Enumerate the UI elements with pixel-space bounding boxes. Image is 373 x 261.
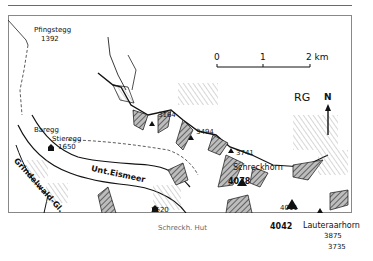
trail-line (20, 45, 28, 115)
region-code: RG (294, 92, 310, 103)
peak-elevation: 4011 (280, 205, 298, 212)
scale-tick-0: 0 (214, 53, 220, 62)
peak-elevation: 3735 (328, 244, 346, 251)
elevation-label: 4042 (270, 223, 292, 231)
elevation-label: 1650 (58, 144, 76, 151)
place-label-lauteraarhorn: Lauteraarhorn (303, 222, 360, 230)
place-label-schreckh-hut: Schreckh. Hut (158, 225, 207, 232)
place-label-baregg: Baregg (34, 127, 59, 134)
scale-tick-2: 2 km (306, 53, 329, 62)
elevation-label: 4078 (228, 178, 250, 186)
elevation-label: 2520 (151, 207, 169, 214)
map-drawing (8, 15, 352, 213)
place-label-schreckhorn: Schreckhorn (233, 164, 283, 172)
trail-line (8, 20, 28, 45)
place-label-pfingstegg: Pfingstegg (34, 27, 71, 34)
peak-elevation: 3875 (324, 233, 342, 240)
place-label-stieregg: Stieregg (52, 136, 81, 143)
peak-elevation: 3494 (196, 129, 214, 136)
elevation-label: 1392 (41, 36, 59, 43)
peak-elevation: 3164 (158, 112, 176, 119)
map-figure: Pfingstegg 1392 Baregg Stieregg 1650 252… (8, 15, 352, 213)
north-label: N (324, 93, 332, 102)
peak-elevation: 3741 (236, 150, 254, 157)
scale-tick-1: 1 (260, 53, 266, 62)
top-rule (8, 5, 352, 6)
